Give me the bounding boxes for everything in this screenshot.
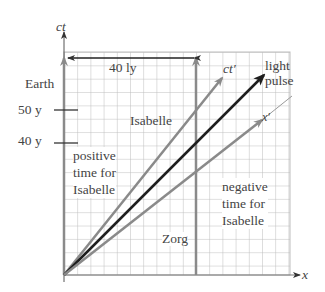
earth-label: Earth	[25, 77, 54, 91]
spacetime-diagram	[0, 0, 325, 292]
x-prime-label: x′	[262, 110, 270, 124]
tick-50y-label: 50 y	[18, 103, 42, 117]
x-axis-label: x	[302, 268, 308, 282]
isabelle-label: Isabelle	[130, 114, 172, 128]
negative-time-region-label: negative time for Isabelle	[222, 178, 268, 229]
tick-40y-label: 40 y	[18, 134, 42, 148]
ct-prime-label: ct′	[223, 62, 236, 76]
distance-label: 40 ly	[109, 61, 136, 75]
ct-axis-label: ct	[56, 20, 66, 34]
zorg-label: Zorg	[162, 232, 188, 246]
light-pulse-label: light pulse	[265, 58, 294, 88]
positive-time-region-label: positive time for Isabelle	[73, 147, 116, 198]
